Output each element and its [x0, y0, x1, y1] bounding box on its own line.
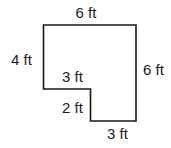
label-inner-horizontal: 3 ft — [62, 68, 84, 85]
label-top: 6 ft — [76, 4, 98, 21]
l-shape-outline — [44, 25, 137, 121]
label-right: 6 ft — [143, 61, 165, 78]
label-inner-vertical: 2 ft — [62, 99, 84, 116]
label-left: 4 ft — [11, 51, 33, 68]
label-bottom: 3 ft — [107, 125, 129, 142]
l-shape-diagram: 6 ft 4 ft 6 ft 3 ft 2 ft 3 ft — [0, 0, 171, 148]
